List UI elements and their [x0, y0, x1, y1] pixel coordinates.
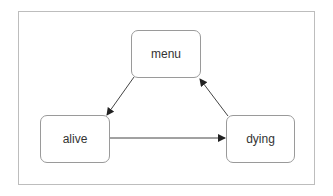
node-menu: menu	[131, 30, 201, 78]
edge-dying-to-menu	[200, 79, 228, 116]
node-menu-label: menu	[151, 47, 181, 61]
edge-menu-to-alive	[107, 77, 134, 115]
node-dying-label: dying	[246, 132, 275, 146]
node-alive-label: alive	[63, 132, 88, 146]
node-alive: alive	[40, 115, 110, 163]
node-dying: dying	[226, 115, 295, 163]
